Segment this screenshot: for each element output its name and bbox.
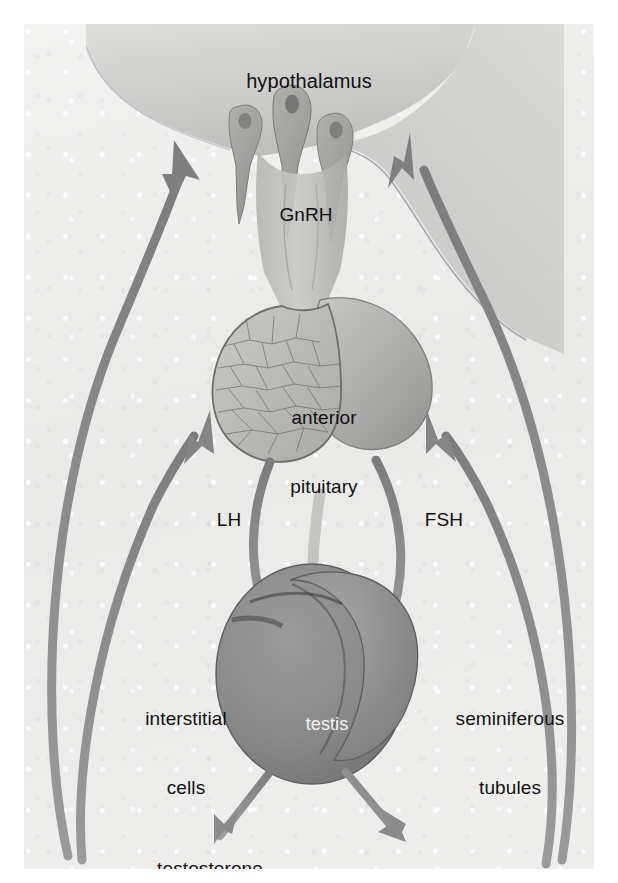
label-sperm-inhibin: sperm (plus inhibin) <box>417 845 517 869</box>
sperm-arrow-shaft <box>346 772 396 832</box>
infundibulum <box>256 152 348 310</box>
figure-hormonal-axis-diagram: hypothalamus GnRH anterior pituitary LH … <box>0 0 618 883</box>
label-seminiferous-tubules: seminiferous tubules <box>456 661 565 845</box>
inhibin-feedback-pituitary-head <box>426 408 456 462</box>
label-seminiferous-tubules-line2: tubules <box>456 776 565 799</box>
label-interstitial-cells-line1: interstitial <box>145 707 226 730</box>
label-anterior-pituitary-line1: anterior <box>290 406 357 429</box>
label-anterior-pituitary-line2: pituitary <box>290 475 357 498</box>
pituitary-stalk <box>256 152 348 310</box>
label-seminiferous-tubules-line1: seminiferous <box>456 707 565 730</box>
label-interstitial-cells-line2: cells <box>145 776 226 799</box>
testosterone-feedback-hypothalamus-head <box>162 140 200 200</box>
label-interstitial-cells: interstitial cells <box>145 661 226 845</box>
label-testosterone: testosterone <box>157 857 263 869</box>
label-fsh: FSH <box>425 508 463 531</box>
label-lh: LH <box>217 508 242 531</box>
label-testis: testis <box>306 713 349 736</box>
gnrh-nucleus-right <box>330 122 343 139</box>
sperm-output-arrow <box>346 772 406 842</box>
testis-structure <box>216 564 418 784</box>
label-gnrh: GnRH <box>279 203 332 226</box>
gnrh-nucleus-left <box>239 113 252 129</box>
label-hypothalamus: hypothalamus <box>246 70 372 93</box>
gnrh-nucleus-middle <box>285 95 299 114</box>
illustration-plate: hypothalamus GnRH anterior pituitary LH … <box>24 24 594 869</box>
label-anterior-pituitary: anterior pituitary <box>290 360 357 544</box>
